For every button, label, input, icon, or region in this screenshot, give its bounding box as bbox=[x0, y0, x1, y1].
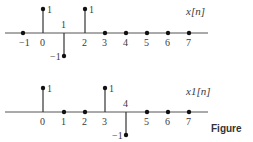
value-annotation: −1 bbox=[112, 130, 123, 141]
signal-label: x1[n] bbox=[185, 85, 210, 97]
value-annotation: 1 bbox=[47, 83, 52, 94]
plot-x1: 0 1 2 3 4 5 6 7 1 1 −1 x1[n] bbox=[5, 83, 210, 141]
svg-text:6: 6 bbox=[165, 37, 170, 48]
svg-text:2: 2 bbox=[82, 37, 87, 48]
svg-text:3: 3 bbox=[102, 116, 107, 127]
svg-text:4: 4 bbox=[123, 37, 128, 48]
figure-caption: Figure bbox=[211, 123, 242, 134]
svg-text:6: 6 bbox=[165, 116, 170, 127]
svg-text:4: 4 bbox=[123, 98, 128, 109]
svg-text:1: 1 bbox=[61, 19, 66, 30]
svg-text:3: 3 bbox=[102, 37, 107, 48]
svg-text:5: 5 bbox=[144, 116, 149, 127]
svg-text:7: 7 bbox=[186, 116, 191, 127]
signal-label: x[n] bbox=[185, 5, 205, 17]
svg-text:2: 2 bbox=[82, 116, 87, 127]
value-annotation: 1 bbox=[89, 4, 94, 15]
plot-x: −1 0 1 2 3 4 5 6 7 1 −1 1 x[n] bbox=[5, 4, 208, 62]
svg-text:5: 5 bbox=[144, 37, 149, 48]
value-annotation: 1 bbox=[47, 4, 52, 15]
value-annotation: −1 bbox=[50, 51, 61, 62]
value-annotation: 1 bbox=[109, 83, 114, 94]
svg-text:1: 1 bbox=[61, 116, 66, 127]
svg-text:−1: −1 bbox=[19, 37, 30, 48]
stem-plots: −1 0 1 2 3 4 5 6 7 1 −1 1 x[n] bbox=[0, 0, 253, 142]
svg-text:0: 0 bbox=[40, 37, 45, 48]
svg-text:0: 0 bbox=[40, 116, 45, 127]
svg-text:7: 7 bbox=[186, 37, 191, 48]
